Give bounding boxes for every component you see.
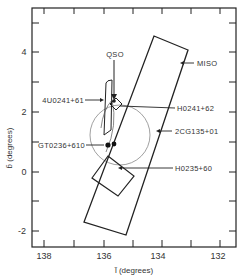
label-4u0241: 4U0241+61 <box>42 96 84 105</box>
region-miso <box>84 36 188 235</box>
cg135-arrowhead <box>156 129 160 133</box>
label-qso: QSO <box>106 50 124 59</box>
chart-canvas: 138 136 134 132 4 2 0 -2 l̃ (degrees) b̃… <box>0 0 246 278</box>
x-tick-136: 136 <box>96 251 111 261</box>
miso-arrowhead <box>180 61 184 65</box>
gt0236-point-2 <box>112 142 117 147</box>
x-tick-134: 134 <box>150 251 165 261</box>
sky-map-figure: 138 136 134 132 4 2 0 -2 l̃ (degrees) b̃… <box>0 0 246 278</box>
x-axis-title: l̃ (degrees) <box>114 266 154 275</box>
qso-point <box>112 99 116 103</box>
y-tick-2: 2 <box>21 107 26 117</box>
y-tick-4: 4 <box>21 47 26 57</box>
label-2cg135: 2CG135+01 <box>175 127 218 136</box>
region-h0235 <box>92 156 134 196</box>
label-h0235: H0235+60 <box>175 164 212 173</box>
h0235-arrowhead <box>118 166 122 170</box>
region-2cg135 <box>90 105 150 165</box>
gt0236-point <box>105 142 110 147</box>
y-tick-neg2: -2 <box>18 226 26 236</box>
x-tick-138: 138 <box>36 251 51 261</box>
y-axis-title: b̃ (degrees) <box>5 127 14 168</box>
y-tick-0: 0 <box>21 167 26 177</box>
label-h0241: H0241+62 <box>177 104 214 113</box>
h0241-leader <box>120 106 175 108</box>
u0241-arrowhead <box>100 98 104 102</box>
x-tick-132: 132 <box>210 251 225 261</box>
label-miso: MISO <box>197 59 217 68</box>
label-gt0236: GT0236+610 <box>38 141 85 150</box>
